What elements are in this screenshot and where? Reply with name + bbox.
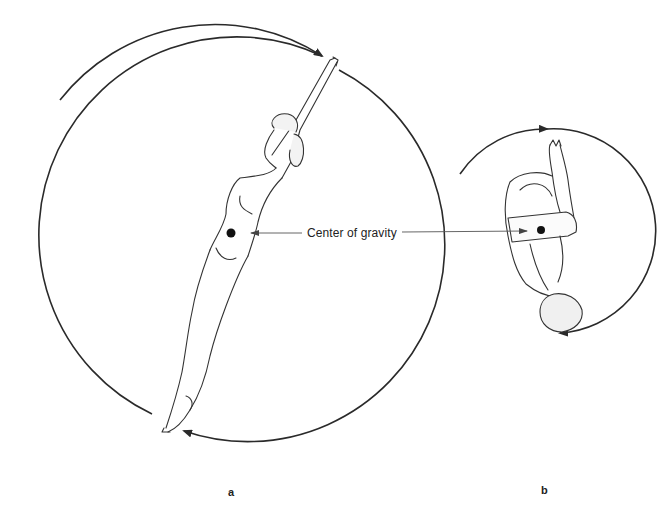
pointer-line-b [402, 231, 527, 232]
diver-tuck-figure [505, 140, 582, 332]
center-of-gravity-dot-a [227, 229, 236, 238]
panel-label-b: b [541, 484, 548, 496]
diagram-canvas [0, 0, 671, 522]
center-of-gravity-dot-b [537, 226, 545, 234]
diver-layout-figure [162, 57, 338, 432]
center-of-gravity-label: Center of gravity [307, 226, 397, 240]
panel-label-a: a [228, 486, 234, 498]
